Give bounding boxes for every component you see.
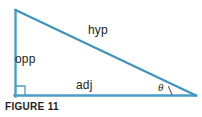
right-angle-marker-icon [16,86,26,96]
figure-caption: FIGURE 11 [5,101,59,112]
label-adjacent-side: adj [76,79,93,91]
label-theta-angle: θ [158,82,164,93]
figure-container: opp hyp adj θ FIGURE 11 [0,0,202,117]
angle-arc-marker-icon [169,87,173,95]
label-hypotenuse: hyp [88,24,108,36]
label-opposite-side: opp [15,53,36,65]
